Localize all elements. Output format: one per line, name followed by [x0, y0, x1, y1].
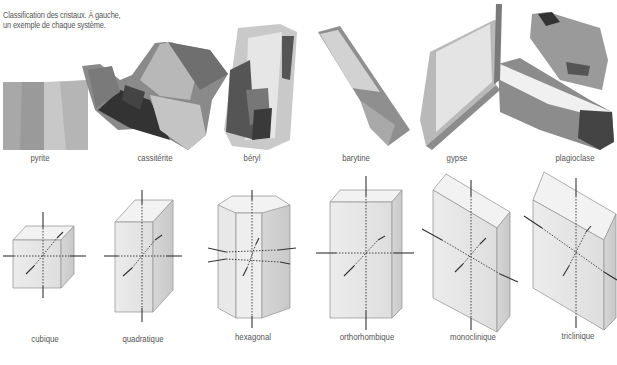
label-barytine: barytine	[315, 152, 397, 163]
label-gypse: gypse	[416, 152, 498, 163]
label-monoclinique: monoclinique	[432, 331, 514, 342]
barytine-specimen	[318, 26, 410, 146]
gypse-specimen	[420, 20, 500, 150]
crystal-axes	[3, 176, 617, 330]
label-beryl: béryl	[211, 152, 293, 163]
monoclinic-system-diagram	[433, 174, 510, 332]
label-triclinique: triclinique	[537, 330, 617, 341]
plagioclase-specimen	[494, 4, 614, 150]
hexagonal-system-diagram	[218, 196, 290, 318]
label-pyrite: pyrite	[0, 152, 81, 163]
beryl-specimen	[224, 24, 297, 150]
label-quadratique: quadratique	[102, 333, 184, 344]
label-cassiterite: cassitérite	[114, 152, 196, 163]
label-plagioclase: plagioclase	[534, 152, 616, 163]
label-hexagonal: hexagonal	[212, 331, 294, 342]
label-orthorhombique: orthorhombique	[326, 331, 408, 342]
pyrite-specimen	[3, 80, 88, 150]
cassiterite-specimen	[82, 42, 228, 150]
cubic-system-diagram	[13, 226, 74, 288]
label-cubique: cubique	[4, 333, 86, 344]
crystal-illustrations	[0, 0, 617, 365]
